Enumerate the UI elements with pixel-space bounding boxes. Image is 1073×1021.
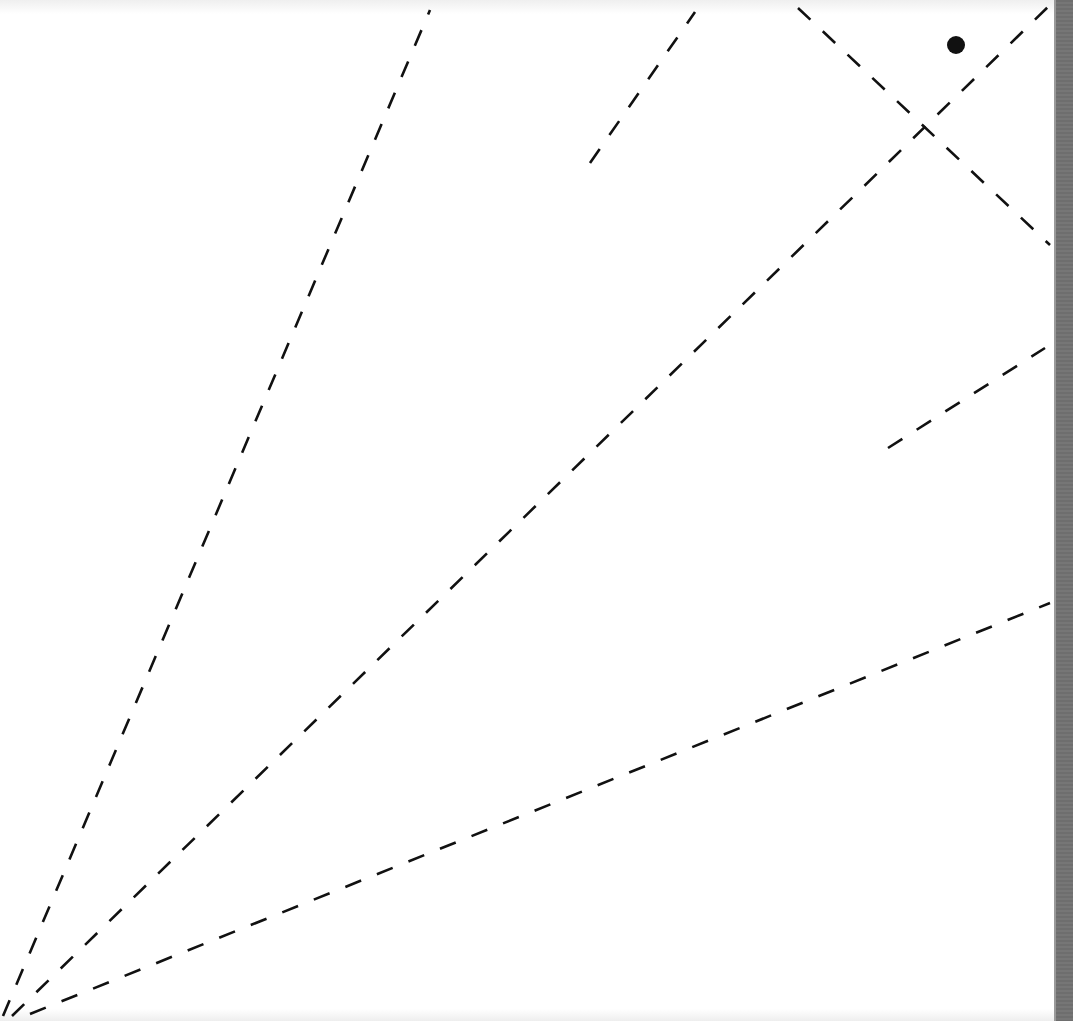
diagram-canvas xyxy=(0,0,1073,1021)
dashed-line-segment-right-mid xyxy=(888,348,1045,448)
dashed-line-ray-steep xyxy=(3,10,430,1016)
dashed-line-ray-shallow xyxy=(30,603,1050,1014)
page-edge-bar xyxy=(1054,0,1073,1021)
dashed-line-segment-upper-mid xyxy=(590,12,695,163)
dot-marker xyxy=(947,36,965,54)
dashed-line-ray-diagonal xyxy=(12,5,1050,1016)
